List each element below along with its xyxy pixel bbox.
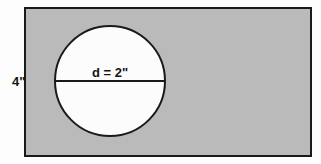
height-dimension-label: 4" <box>12 74 25 89</box>
geometry-diagram: 4" d = 2" <box>0 0 321 164</box>
diameter-dimension-label: d = 2" <box>92 65 128 80</box>
diagram-canvas: 4" d = 2" <box>0 0 321 164</box>
